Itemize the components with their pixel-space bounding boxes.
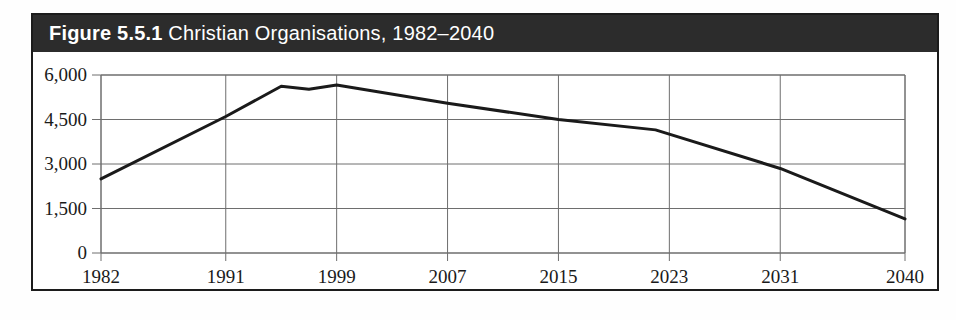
figure-caption: Christian Organisations, 1982–2040 — [163, 22, 495, 44]
xtick-label: 2031 — [761, 266, 799, 287]
xtick-label: 2015 — [539, 266, 577, 287]
figure-title-bar: Figure 5.5.1 Christian Organisations, 19… — [33, 15, 937, 52]
figure-title: Figure 5.5.1 Christian Organisations, 19… — [33, 22, 494, 45]
ytick-label: 1,500 — [44, 198, 87, 219]
xtick-label: 1999 — [318, 266, 356, 287]
ytick-label: 3,000 — [44, 153, 87, 174]
chart-plot-region: 01,5003,0004,5006,0001982199119992007201… — [33, 52, 937, 289]
figure-container: Figure 5.5.1 Christian Organisations, 19… — [0, 0, 956, 320]
xtick-label: 2023 — [650, 266, 688, 287]
xtick-label: 2040 — [886, 266, 924, 287]
figure-number: Figure 5.5.1 — [49, 22, 163, 44]
ytick-label: 0 — [78, 242, 88, 263]
data-line-christian-organisations — [101, 85, 905, 219]
xtick-label: 2007 — [429, 266, 467, 287]
ytick-label: 6,000 — [44, 64, 87, 85]
ytick-label: 4,500 — [44, 109, 87, 130]
line-chart-svg: 01,5003,0004,5006,0001982199119992007201… — [33, 52, 937, 289]
xtick-label: 1982 — [82, 266, 120, 287]
xtick-label: 1991 — [207, 266, 245, 287]
